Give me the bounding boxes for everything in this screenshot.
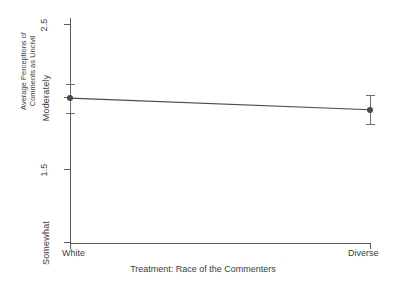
x-axis-title: Treatment: Race of the Commenters <box>0 264 406 274</box>
error-cap-diverse-top <box>366 95 375 96</box>
y-axis-title-line-1: Average Perceptions of <box>19 32 28 110</box>
error-cap-white-top <box>66 84 75 85</box>
error-cap-white-bottom <box>66 113 75 114</box>
y-tick-mark <box>64 24 70 25</box>
x-tick-label-white: White <box>62 248 85 258</box>
x-axis-line <box>70 243 370 244</box>
data-point-diverse <box>367 107 373 113</box>
series-line <box>0 0 406 284</box>
y-tick-label-2-5: 2.5 <box>39 5 49 45</box>
y-tick-mark <box>64 169 70 170</box>
chart-figure: 2.5 Moderately 1.5 Somewhat White Divers… <box>0 0 406 284</box>
y-axis-title-line-2: Comments as Uncivil <box>28 36 37 106</box>
y-axis-title: Average Perceptions of Comments as Unciv… <box>19 11 37 131</box>
y-tick-label-moderately: Moderately <box>41 62 51 134</box>
x-tick-label-diverse: Diverse <box>348 248 379 258</box>
y-axis-line <box>70 18 71 244</box>
error-cap-diverse-bottom <box>366 124 375 125</box>
y-tick-label-1-5: 1.5 <box>39 150 49 190</box>
data-point-white <box>67 95 73 101</box>
